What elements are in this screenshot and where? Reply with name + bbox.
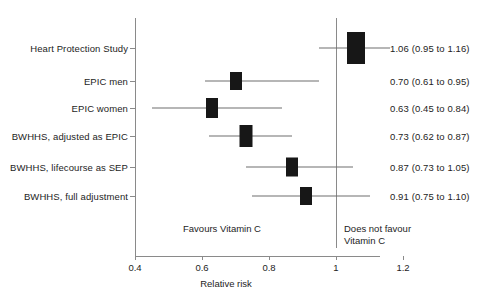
x-tick-label: 0.8	[262, 262, 275, 273]
favours-right-line2: Vitamin C	[344, 235, 411, 247]
x-axis-title: Relative risk	[0, 278, 484, 289]
x-tick-label: 0.4	[128, 262, 141, 273]
y-tick	[130, 48, 136, 49]
effect-value-label: 0.91 (0.75 to 1.10)	[390, 191, 470, 202]
x-tick	[403, 256, 404, 260]
favours-left-annotation: Favours Vitamin C	[183, 223, 261, 234]
x-tick	[202, 256, 203, 260]
effect-value-label: 0.63 (0.45 to 0.84)	[390, 103, 470, 114]
study-label: BWHHS, adjusted as EPIC	[12, 131, 128, 142]
x-tick-label: 0.6	[195, 262, 208, 273]
point-estimate-box	[206, 98, 218, 118]
study-label-column: Heart Protection StudyEPIC menEPIC women…	[0, 0, 128, 301]
y-tick	[130, 81, 136, 82]
x-axis-title-text: Relative risk	[200, 278, 252, 289]
forest-plot: Heart Protection StudyEPIC menEPIC women…	[0, 0, 484, 301]
point-estimate-box	[230, 72, 242, 90]
y-tick	[130, 108, 136, 109]
study-label: EPIC women	[72, 103, 128, 114]
study-label: BWHHS, full adjustment	[24, 191, 128, 202]
y-tick	[130, 136, 136, 137]
study-label: BWHHS, lifecourse as SEP	[10, 162, 128, 173]
x-tick-label: 1.2	[396, 262, 409, 273]
point-estimate-box	[239, 125, 252, 147]
x-tick	[336, 256, 337, 260]
point-estimate-box	[347, 32, 365, 64]
x-tick	[135, 256, 136, 260]
point-estimate-box	[286, 158, 298, 177]
confidence-interval-line	[205, 81, 319, 82]
effect-value-label: 0.73 (0.62 to 0.87)	[390, 131, 470, 142]
null-reference-line	[336, 18, 337, 248]
effect-value-label: 1.06 (0.95 to 1.16)	[390, 43, 470, 54]
y-axis-line	[135, 18, 136, 256]
study-label: EPIC men	[84, 76, 128, 87]
point-estimate-box	[300, 187, 312, 205]
x-tick	[269, 256, 270, 260]
favours-right-line1: Does not favour	[344, 223, 411, 235]
effect-value-label: 0.87 (0.73 to 1.05)	[390, 162, 470, 173]
x-tick-label: 1	[333, 262, 338, 273]
y-tick	[130, 167, 136, 168]
confidence-interval-line	[246, 167, 353, 168]
study-label: Heart Protection Study	[30, 43, 128, 54]
y-tick	[130, 196, 136, 197]
x-axis-line	[135, 256, 380, 257]
effect-value-label: 0.70 (0.61 to 0.95)	[390, 76, 470, 87]
favours-right-annotation: Does not favour Vitamin C	[344, 223, 411, 247]
